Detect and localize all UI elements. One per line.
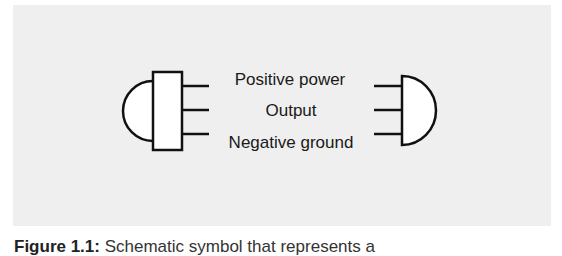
left-dome-icon xyxy=(123,81,153,141)
right-dome-icon xyxy=(402,76,436,145)
label-positive-power: Positive power xyxy=(235,71,346,88)
figure-caption-text: Schematic symbol that represents a xyxy=(105,237,375,256)
figure-number: Figure 1.1: xyxy=(14,237,100,256)
label-output: Output xyxy=(265,102,316,119)
figure-caption: Figure 1.1: Schematic symbol that repres… xyxy=(14,238,375,255)
right-sensor-symbol-icon xyxy=(374,76,436,145)
left-sensor-body-icon xyxy=(153,72,182,150)
label-negative-ground: Negative ground xyxy=(229,134,354,151)
left-sensor-symbol-icon xyxy=(123,72,209,150)
